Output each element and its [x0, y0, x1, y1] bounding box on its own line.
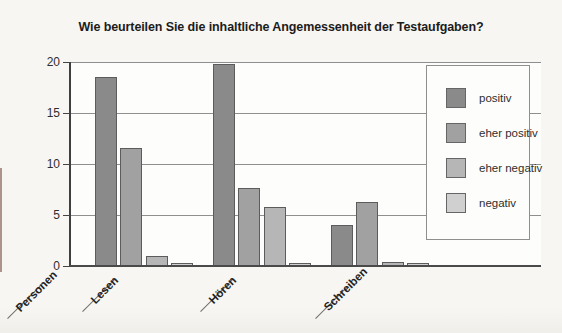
bar-hören-eher-negativ [264, 207, 286, 266]
chart-title: Wie beurteilen Sie die inhaltliche Angem… [0, 20, 562, 34]
chart-page: Wie beurteilen Sie die inhaltliche Angem… [0, 0, 562, 333]
legend-swatch-eher-negativ [446, 158, 466, 178]
legend-item-positiv: positiv [427, 88, 529, 108]
y-tick-label-20: 20 [30, 56, 60, 68]
x-label-hören: Hören [207, 274, 239, 306]
y-tick-0 [63, 266, 70, 267]
bar-lesen-eher-positiv [120, 148, 142, 266]
bar-hören-positiv [213, 64, 235, 266]
legend-swatch-negativ [446, 193, 466, 213]
legend-item-eher-negativ: eher negativ [427, 158, 529, 178]
y-tick-label-5: 5 [30, 209, 60, 221]
scan-edge-artifact [0, 168, 2, 272]
bar-lesen-positiv [95, 77, 117, 266]
y-tick-15 [63, 113, 70, 114]
y-tick-5 [63, 215, 70, 216]
bar-schreiben-eher-positiv [356, 202, 378, 266]
legend-box: positiveher positiveher negativnegativ [426, 65, 530, 240]
x-label-lesen: Lesen [89, 274, 121, 306]
legend-swatch-positiv [446, 88, 466, 108]
legend-swatch-eher-positiv [446, 123, 466, 143]
y-tick-label-10: 10 [30, 158, 60, 170]
y-tick-20 [63, 62, 70, 63]
legend-label-negativ: negativ [479, 197, 516, 210]
gridline-20 [70, 62, 541, 63]
y-tick-10 [63, 164, 70, 165]
y-tick-label-0: 0 [30, 260, 60, 272]
legend-label-eher-negativ: eher negativ [479, 162, 542, 175]
x-label-schreiben: Schreiben [322, 265, 370, 313]
legend-label-positiv: positiv [479, 92, 512, 105]
legend-item-eher-positiv: eher positiv [427, 123, 529, 143]
legend-label-eher-positiv: eher positiv [479, 127, 538, 140]
y-tick-label-15: 15 [30, 107, 60, 119]
bar-schreiben-positiv [331, 225, 353, 266]
x-axis-baseline [70, 265, 541, 267]
y-axis-unit-label: Personen [14, 268, 60, 314]
bar-hören-eher-positiv [238, 188, 260, 266]
legend-item-negativ: negativ [427, 193, 529, 213]
